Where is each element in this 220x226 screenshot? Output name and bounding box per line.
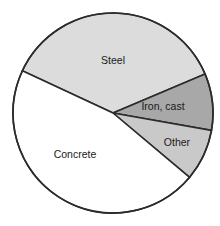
pie-chart-figure: Steel Iron, cast Other Concrete xyxy=(0,0,220,226)
pie-label-iron-cast: Iron, cast xyxy=(141,100,184,112)
pie-label-steel: Steel xyxy=(101,54,125,66)
pie-label-concrete: Concrete xyxy=(54,148,97,160)
pie-label-other: Other xyxy=(164,136,191,148)
pie-chart-svg: Steel Iron, cast Other Concrete xyxy=(0,0,220,226)
pie-slices-group xyxy=(13,13,213,213)
